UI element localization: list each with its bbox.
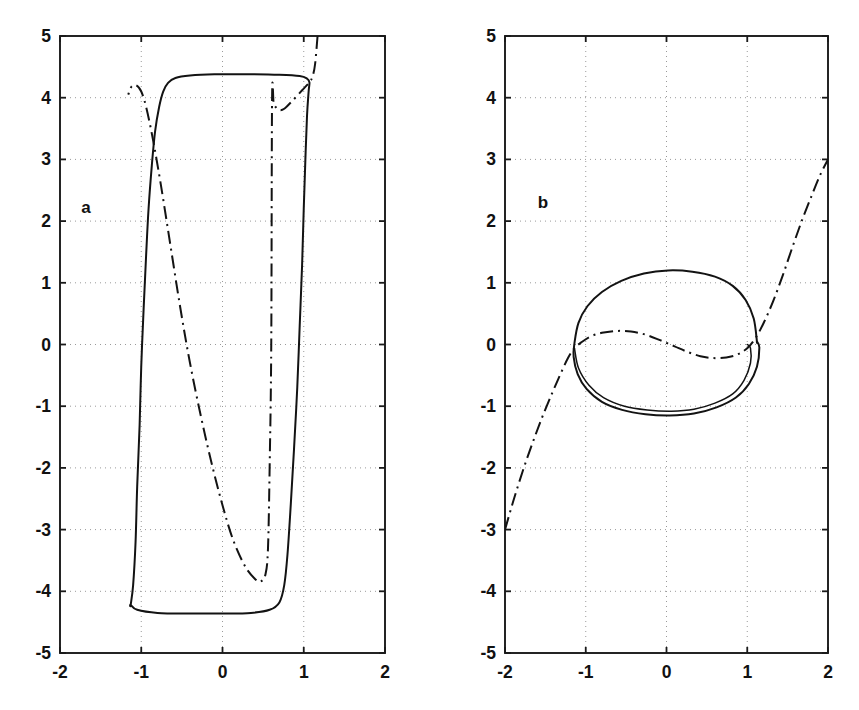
y-tick-label: -2 (480, 458, 496, 478)
panel-a-svg: -2-1012543210-1-2-3-4-5 a (0, 0, 430, 710)
y-tick-label: 5 (41, 26, 51, 46)
panel-b-tick-labels: -2-1012543210-1-2-3-4-5 (480, 26, 833, 682)
y-tick-label: -1 (480, 396, 496, 416)
panel-a-label: a (81, 198, 91, 217)
panel-a-ticks (60, 36, 385, 653)
x-tick-label: 1 (299, 662, 309, 682)
y-tick-label: -3 (35, 520, 51, 540)
y-tick-label: 5 (486, 26, 496, 46)
x-tick-label: 2 (380, 662, 390, 682)
panel-a-gridlines (60, 36, 385, 653)
y-tick-label: 2 (41, 211, 51, 231)
y-tick-label: -4 (480, 581, 496, 601)
y-tick-label: 1 (486, 273, 496, 293)
y-tick-label: 3 (486, 149, 496, 169)
y-tick-label: 1 (41, 273, 51, 293)
y-tick-label: 4 (486, 88, 496, 108)
panel-a-axes-frame (60, 36, 385, 653)
panel-a: -2-1012543210-1-2-3-4-5 a (0, 0, 430, 710)
y-tick-label: 3 (41, 149, 51, 169)
y-tick-label: 2 (486, 211, 496, 231)
y-tick-label: -4 (35, 581, 51, 601)
y-tick-label: -3 (480, 520, 496, 540)
panel-b-curves (505, 159, 828, 529)
y-tick-label: 0 (41, 335, 51, 355)
panel-b-axes-frame (505, 36, 828, 653)
x-tick-label: -2 (52, 662, 68, 682)
x-tick-label: 1 (742, 662, 752, 682)
curve-relaxation-limit-cycle (130, 74, 309, 613)
y-tick-label: -5 (35, 643, 51, 663)
panel-b-label: b (538, 193, 548, 212)
y-tick-label: 0 (486, 335, 496, 355)
x-tick-label: -1 (133, 662, 149, 682)
x-tick-label: 0 (218, 662, 228, 682)
curve-cubic-nullcline-trajectory (505, 159, 828, 529)
figure-container: -2-1012543210-1-2-3-4-5 a -2-1012543210-… (0, 0, 859, 710)
x-tick-label: -2 (497, 662, 513, 682)
x-tick-label: 2 (823, 662, 833, 682)
y-tick-label: -2 (35, 458, 51, 478)
y-tick-label: -5 (480, 643, 496, 663)
panel-b-svg: -2-1012543210-1-2-3-4-5 b (430, 0, 859, 710)
panel-b: -2-1012543210-1-2-3-4-5 b (430, 0, 859, 710)
panel-a-tick-labels: -2-1012543210-1-2-3-4-5 (35, 26, 390, 682)
x-tick-label: -1 (578, 662, 594, 682)
y-tick-label: 4 (41, 88, 51, 108)
y-tick-label: -1 (35, 396, 51, 416)
panel-b-gridlines (505, 36, 828, 653)
panel-b-ticks (505, 36, 828, 653)
x-tick-label: 0 (662, 662, 672, 682)
